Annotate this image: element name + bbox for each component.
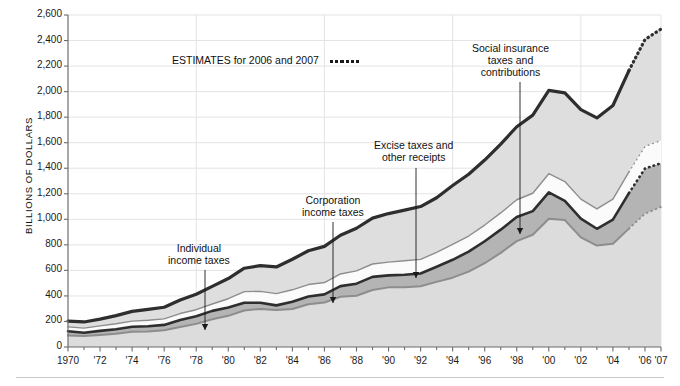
annotation-excise-line2: other receipts	[374, 151, 453, 163]
y-tick-label: 200	[14, 314, 62, 325]
y-tick-label: 600	[14, 263, 62, 274]
annotation-individual-line2: income taxes	[168, 254, 230, 266]
annotation-individual-line1: Individual	[168, 242, 230, 254]
x-tick-label: '07	[641, 355, 680, 366]
estimates-legend-label: ESTIMATES for 2006 and 2007	[172, 54, 319, 66]
estimates-legend-dotted-line	[330, 60, 359, 63]
annotation-social-insurance: Social insurance taxes and contributions	[472, 42, 549, 78]
y-tick-label: 1,000	[14, 212, 62, 223]
y-tick-label: 1,600	[14, 136, 62, 147]
y-tick-label: 800	[14, 238, 62, 249]
y-tick-label: 0	[14, 340, 62, 351]
y-tick-label: 2,600	[14, 8, 62, 19]
annotation-social-line3: contributions	[472, 66, 549, 78]
y-tick-label: 2,200	[14, 59, 62, 70]
y-tick-label: 1,800	[14, 110, 62, 121]
annotation-excise-line1: Excise taxes and	[374, 139, 453, 151]
y-tick-label: 2,400	[14, 34, 62, 45]
tax-receipts-chart: BILLIONS OF DOLLARS 02004006008001,0001,…	[0, 0, 680, 386]
annotation-excise-taxes: Excise taxes and other receipts	[374, 139, 453, 163]
y-tick-label: 1,200	[14, 187, 62, 198]
y-tick-label: 2,000	[14, 85, 62, 96]
y-tick-label: 400	[14, 289, 62, 300]
annotation-social-line2: taxes and	[472, 54, 549, 66]
y-tick-label: 1,400	[14, 161, 62, 172]
footer-rule	[16, 377, 664, 378]
annotation-corporation-line1: Corporation	[302, 194, 364, 206]
annotation-individual-income-taxes: Individual income taxes	[168, 242, 230, 266]
annotation-corporation-income-taxes: Corporation income taxes	[302, 194, 364, 218]
annotation-social-line1: Social insurance	[472, 42, 549, 54]
chart-canvas	[0, 0, 680, 386]
annotation-corporation-line2: income taxes	[302, 206, 364, 218]
